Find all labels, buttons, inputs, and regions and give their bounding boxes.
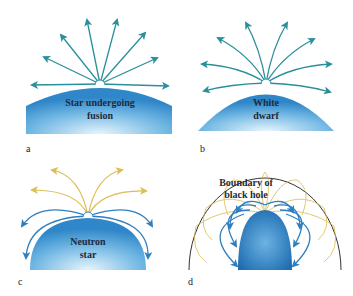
escaping-rays-c bbox=[32, 170, 146, 216]
black-hole-mass bbox=[238, 210, 292, 270]
panel-letter-a: a bbox=[26, 143, 31, 154]
light-rays-a bbox=[32, 20, 168, 86]
panel-letter-d: d bbox=[188, 276, 193, 287]
label-boundary-of: Boundary of bbox=[219, 177, 273, 188]
panel-c-neutron-star: Neutron star c bbox=[18, 170, 152, 287]
label-white: White bbox=[253, 97, 280, 108]
panel-d-black-hole: Boundary of black hole d bbox=[188, 172, 341, 287]
panel-letter-b: b bbox=[200, 143, 205, 154]
gravitational-light-bending-diagram: Star undergoing fusion a White dwarf b bbox=[0, 0, 353, 296]
emitter-c bbox=[83, 212, 93, 217]
label-dwarf: dwarf bbox=[253, 110, 279, 121]
panel-a-star-undergoing-fusion: Star undergoing fusion a bbox=[26, 20, 172, 154]
label-star: star bbox=[80, 249, 97, 260]
label-fusion: fusion bbox=[87, 110, 114, 121]
label-black-hole: black hole bbox=[224, 189, 268, 200]
emitter-b bbox=[261, 79, 271, 84]
panel-letter-c: c bbox=[18, 276, 23, 287]
label-neutron: Neutron bbox=[70, 236, 106, 247]
panel-b-white-dwarf: White dwarf b bbox=[198, 23, 334, 154]
label-star-undergoing-fusion: Star undergoing bbox=[65, 97, 135, 108]
